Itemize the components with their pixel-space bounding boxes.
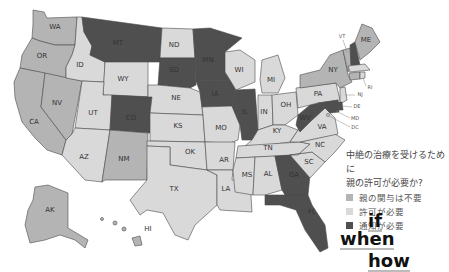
label-DC: DC	[351, 124, 359, 130]
state-FL[interactable]	[265, 195, 328, 252]
label-WA: WA	[49, 23, 61, 31]
label-WY: WY	[117, 75, 129, 83]
label-WI: WI	[235, 66, 244, 74]
state-RI[interactable]	[360, 72, 365, 79]
label-TX: TX	[168, 185, 178, 193]
label-MN: MN	[202, 56, 213, 64]
label-NC: NC	[315, 141, 325, 149]
state-AK[interactable]	[25, 185, 88, 248]
legend-title-line2: 親の許可が必要か?	[346, 176, 449, 190]
state-HI-island-3	[122, 227, 126, 231]
state-MI[interactable]	[260, 55, 285, 93]
label-NE: NE	[171, 94, 181, 102]
label-PA: PA	[314, 90, 323, 98]
label-IA: IA	[212, 90, 219, 98]
legend-item-none: 親の関与は不要	[346, 190, 449, 204]
leader-DE	[342, 106, 352, 107]
label-AL: AL	[264, 170, 273, 178]
label-IN: IN	[260, 108, 267, 116]
label-AZ: AZ	[79, 153, 89, 161]
state-HI-island-2	[113, 221, 117, 225]
state-NJ[interactable]	[340, 87, 347, 104]
leader-MD	[336, 111, 350, 118]
logo-word-when: when	[340, 230, 394, 250]
label-MI: MI	[267, 76, 275, 84]
leader-RI	[363, 78, 366, 86]
label-UT: UT	[88, 109, 98, 117]
legend-label-none: 親の関与は不要	[359, 191, 422, 203]
label-KS: KS	[173, 122, 183, 130]
label-GA: GA	[289, 171, 299, 179]
label-NY: NY	[328, 66, 338, 74]
label-VA: VA	[317, 123, 326, 131]
label-NM: NM	[118, 155, 129, 163]
logo-how: how	[368, 250, 410, 272]
label-AR: AR	[219, 156, 229, 164]
legend-title-line1: 中絶の治療を受けるために	[346, 148, 449, 176]
label-TN: TN	[262, 144, 273, 152]
label-SD: SD	[169, 66, 179, 74]
label-NV: NV	[52, 99, 62, 107]
label-HI: HI	[144, 225, 151, 233]
label-ND: ND	[169, 41, 180, 49]
label-OH: OH	[281, 101, 292, 109]
state-HI[interactable]	[132, 236, 142, 246]
legend-swatch-none	[346, 194, 353, 201]
label-OK: OK	[185, 148, 196, 156]
label-ME: ME	[361, 36, 371, 44]
label-MT: MT	[113, 39, 124, 47]
label-KY: KY	[273, 127, 282, 135]
logo-word-how: how	[368, 252, 410, 272]
label-AK: AK	[45, 206, 55, 214]
label-MS: MS	[242, 171, 253, 179]
label-ID: ID	[76, 61, 83, 69]
label-DE: DE	[353, 103, 360, 109]
legend: 中絶の治療を受けるために 親の許可が必要か? 親の関与は不要 許可が必要 通知が…	[346, 148, 449, 232]
label-IL: IL	[242, 108, 248, 116]
label-SC: SC	[304, 158, 313, 166]
legend-item-permission: 許可が必要	[346, 204, 449, 218]
label-NJ: NJ	[357, 91, 362, 97]
legend-swatch-permission	[346, 208, 353, 215]
label-MO: MO	[215, 124, 227, 132]
logo-when: when	[340, 228, 394, 250]
label-VT: VT	[339, 33, 346, 39]
label-CA: CA	[29, 118, 39, 126]
state-HI-island-1	[101, 218, 104, 221]
label-RI: RI	[368, 84, 373, 90]
label-CO: CO	[126, 114, 137, 122]
label-MD: MD	[351, 115, 359, 121]
state-CT[interactable]	[349, 72, 360, 80]
label-OR: OR	[37, 52, 48, 60]
label-WV: WV	[299, 114, 311, 122]
label-LA: LA	[222, 185, 231, 193]
label-FL: FL	[308, 208, 316, 216]
